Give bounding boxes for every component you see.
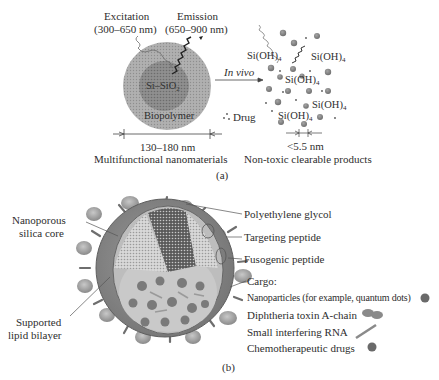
cargo-item: Small interfering RNA xyxy=(247,326,348,338)
product-label: Si(OH)4 xyxy=(311,51,345,66)
toxin-icon xyxy=(362,309,383,319)
peg-label: Polyethylene glycol xyxy=(244,208,332,220)
cargo-item: Nanoparticles (for example, quantum dots… xyxy=(247,292,411,304)
drug-label: Drug xyxy=(233,111,256,123)
product-size-arrow xyxy=(286,129,322,137)
product-label: Si(OH)4 xyxy=(285,74,319,89)
product-label: Si(OH)4 xyxy=(247,50,281,65)
biopolymer-label: Biopolymer xyxy=(144,110,194,122)
emission-label: Emission xyxy=(177,10,218,22)
cargo-title: Cargo: xyxy=(247,275,277,287)
product-label: Si(OH)4 xyxy=(278,110,312,125)
nanoporous-core-label-line2: silica core xyxy=(19,227,64,239)
size-label: 130–180 nm xyxy=(140,141,195,153)
excitation-label: Excitation xyxy=(104,10,149,22)
nanoporous-core-label: Nanoporous xyxy=(12,214,66,226)
quantum-dot-icon xyxy=(421,294,430,303)
diagram-graphics xyxy=(0,0,439,380)
emission-range: (650–900 nm) xyxy=(165,23,228,35)
drug-icon xyxy=(223,113,230,120)
targeting-peptide-label: Targeting peptide xyxy=(244,231,321,243)
panel-b-caption: (b) xyxy=(222,361,235,373)
product-label: Si(OH)4 xyxy=(312,99,346,114)
size-dimension-arrow xyxy=(113,129,222,139)
sirna-icon xyxy=(356,325,376,338)
drug-icon xyxy=(368,343,377,352)
panel-a-caption: (a) xyxy=(216,169,228,181)
cargo-item: Chemotherapeutic drugs xyxy=(247,342,355,354)
in-vivo-label: In vivo xyxy=(224,66,254,78)
core-label: Si–SiO2 xyxy=(146,80,180,95)
cargo-item: Diphtheria toxin A-chain xyxy=(247,309,357,321)
fusogenic-peptide-label: Fusogenic peptide xyxy=(244,253,324,265)
lipid-bilayer-label: Supported xyxy=(16,316,61,328)
right-caption: Non-toxic clearable products xyxy=(244,153,372,165)
in-vivo-arrow xyxy=(215,78,263,82)
left-caption: Multifunctional nanomaterials xyxy=(94,153,228,165)
excitation-range: (300–650 nm) xyxy=(94,23,157,35)
product-size-label: <5.5 nm xyxy=(287,140,324,152)
emission-wave-icon xyxy=(292,46,305,63)
lipid-bilayer-label-line2: lipid bilayer xyxy=(8,329,61,341)
lipid-coated-nanoparticle xyxy=(96,199,234,337)
